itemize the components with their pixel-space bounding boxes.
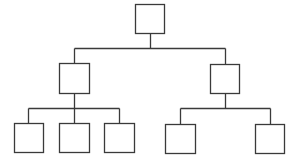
tree-nodes	[15, 5, 285, 154]
node-leaf-2	[60, 124, 90, 153]
node-leaf-1	[15, 124, 44, 153]
node-mid-left	[60, 64, 90, 94]
node-root	[136, 5, 165, 34]
node-leaf-5	[256, 125, 285, 154]
node-mid-right	[211, 65, 240, 94]
node-leaf-4	[166, 125, 196, 154]
tree-diagram	[0, 0, 298, 163]
node-leaf-3	[105, 124, 135, 153]
